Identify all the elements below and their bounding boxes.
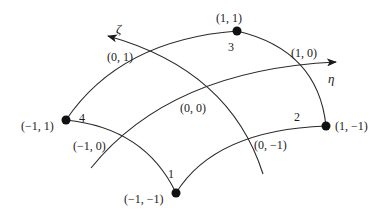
node-3-coord: (1, 1) bbox=[216, 11, 242, 25]
element-diagram: ζ η 1 2 3 4 (−1, −1) (1, −1) (1, 1) (−1,… bbox=[0, 0, 389, 220]
node-3-number: 3 bbox=[228, 40, 234, 54]
midpoint-0-neg1: (0, −1) bbox=[254, 138, 287, 152]
node-2-number: 2 bbox=[294, 110, 300, 124]
midpoint-neg1-0: (−1, 0) bbox=[73, 139, 106, 153]
node-2 bbox=[322, 122, 331, 131]
midpoint-0-0: (0, 0) bbox=[180, 101, 206, 115]
eta-axis-label: η bbox=[328, 71, 334, 86]
node-1 bbox=[172, 189, 181, 198]
edge-4-3 bbox=[66, 31, 237, 120]
midpoint-1-0: (1, 0) bbox=[291, 46, 317, 60]
node-1-number: 1 bbox=[168, 167, 174, 181]
zeta-axis-label: ζ bbox=[116, 21, 122, 36]
edge-4-1 bbox=[66, 120, 176, 193]
node-3 bbox=[233, 27, 242, 36]
node-1-coord: (−1, −1) bbox=[124, 192, 164, 206]
edge-1-2 bbox=[176, 126, 326, 193]
node-4-number: 4 bbox=[79, 111, 85, 125]
node-2-coord: (1, −1) bbox=[335, 119, 368, 133]
node-4-coord: (−1, 1) bbox=[21, 119, 54, 133]
midpoint-0-1: (0, 1) bbox=[107, 50, 133, 64]
node-4 bbox=[62, 116, 71, 125]
